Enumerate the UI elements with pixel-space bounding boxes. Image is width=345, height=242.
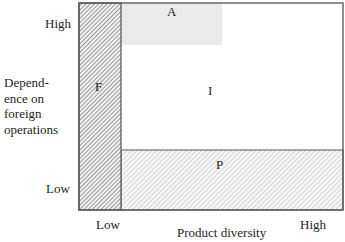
region-a-label: A (167, 4, 176, 19)
y-axis-title-line-2: ence on (4, 91, 58, 107)
y-axis-title-line-1: Depend- (4, 75, 58, 91)
y-axis-title-line-4: operations (4, 122, 58, 138)
y-axis-title: Depend- ence on foreign operations (4, 75, 58, 137)
x-axis-low-label: Low (96, 217, 120, 232)
y-axis-title-line-3: foreign (4, 106, 58, 122)
region-i-label: I (208, 83, 212, 98)
x-axis-title: Product diversity (177, 225, 266, 240)
x-axis-high-label: High (300, 217, 326, 232)
region-p-label: P (216, 157, 223, 172)
y-axis-low-label: Low (46, 181, 70, 196)
region-p (121, 150, 343, 210)
y-axis-high-label: High (45, 16, 71, 31)
region-f-label: F (95, 79, 102, 94)
region-f (79, 3, 121, 210)
